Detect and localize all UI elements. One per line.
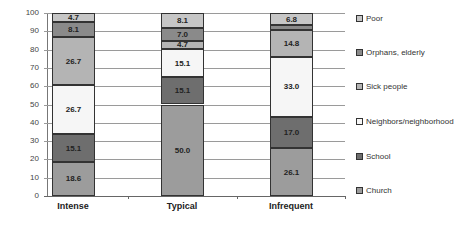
x-category-label: Infrequent [251, 201, 331, 211]
legend-item: Neighbors/neighborhood [356, 117, 454, 126]
y-tick-label: 90 [19, 26, 39, 35]
legend-item: Poor [356, 14, 383, 23]
bar-segment-poor: 8.1 [161, 13, 204, 28]
y-tick-label: 10 [19, 173, 39, 182]
bar-segment-sick-people: 14.8 [270, 30, 313, 57]
y-tick-label: 70 [19, 63, 39, 72]
bar-segment-neighbors-neighborhood: 15.1 [161, 49, 204, 77]
segment-value-label: 50.0 [175, 146, 191, 155]
legend-label: Church [366, 186, 392, 195]
segment-value-label: 7.0 [177, 30, 188, 39]
segment-value-label: 15.1 [66, 144, 82, 153]
legend-item: School [356, 152, 390, 161]
legend-label: School [366, 152, 390, 161]
bar-segment-church: 18.6 [52, 162, 95, 196]
segment-value-label: 26.7 [66, 105, 82, 114]
bar-segment-orphans-elderly: 7.0 [161, 28, 204, 41]
legend-item: Church [356, 186, 392, 195]
segment-value-label: 33.0 [284, 82, 300, 91]
bar-segment-orphans-elderly [270, 25, 313, 29]
y-tick-label: 20 [19, 154, 39, 163]
legend-swatch-icon [356, 15, 363, 22]
x-category-label: Intense [33, 201, 113, 211]
bar-segment-orphans-elderly: 8.1 [52, 22, 95, 37]
y-tick-label: 40 [19, 118, 39, 127]
segment-value-label: 4.7 [177, 40, 188, 49]
bar-segment-sick-people: 4.7 [161, 41, 204, 50]
segment-value-label: 26.1 [284, 168, 300, 177]
bar-segment-church: 26.1 [270, 148, 313, 196]
bar-segment-poor: 4.7 [52, 13, 95, 22]
legend-item: Sick people [356, 82, 407, 91]
x-tick-mark [237, 196, 238, 199]
legend-label: Orphans, elderly [366, 48, 425, 57]
y-tick-label: 80 [19, 45, 39, 54]
bar-segment-neighbors-neighborhood: 26.7 [52, 85, 95, 134]
y-tick-label: 50 [19, 100, 39, 109]
bar-segment-school: 15.1 [52, 134, 95, 162]
legend-label: Poor [366, 14, 383, 23]
segment-value-label: 15.1 [175, 59, 191, 68]
bar-segment-school: 15.1 [161, 77, 204, 105]
legend-swatch-icon [356, 83, 363, 90]
y-tick-label: 60 [19, 81, 39, 90]
gridline [44, 196, 345, 197]
legend-item: Orphans, elderly [356, 48, 425, 57]
segment-value-label: 6.8 [286, 15, 297, 24]
legend-label: Neighbors/neighborhood [366, 117, 454, 126]
segment-value-label: 14.8 [284, 39, 300, 48]
x-tick-mark [345, 196, 346, 199]
bar-segment-school: 17.0 [270, 117, 313, 148]
legend-label: Sick people [366, 82, 407, 91]
segment-value-label: 4.7 [68, 13, 79, 22]
segment-value-label: 8.1 [68, 25, 79, 34]
legend-swatch-icon [356, 49, 363, 56]
legend-swatch-icon [356, 153, 363, 160]
x-category-label: Typical [142, 201, 222, 211]
y-tick-label: 100 [19, 8, 39, 17]
bar-segment-sick-people: 26.7 [52, 37, 95, 86]
segment-value-label: 15.1 [175, 86, 191, 95]
bar-segment-church: 50.0 [161, 105, 204, 197]
bar-segment-neighbors-neighborhood: 33.0 [270, 57, 313, 117]
x-tick-mark [128, 196, 129, 199]
y-tick-label: 30 [19, 136, 39, 145]
legend-swatch-icon [356, 187, 363, 194]
segment-value-label: 18.6 [66, 174, 82, 183]
segment-value-label: 26.7 [66, 57, 82, 66]
y-tick-label: 0 [19, 191, 39, 200]
legend-swatch-icon [356, 118, 363, 125]
segment-value-label: 8.1 [177, 16, 188, 25]
segment-value-label: 17.0 [284, 128, 300, 137]
bar-segment-poor: 6.8 [270, 13, 313, 25]
